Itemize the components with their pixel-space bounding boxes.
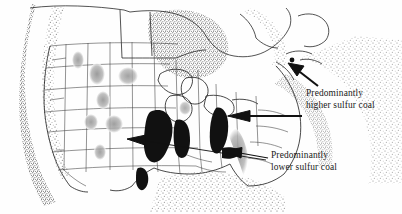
deposit-wyoming bbox=[96, 91, 110, 109]
deposit-nova-scotia bbox=[290, 58, 295, 63]
deposit-utah bbox=[84, 114, 98, 130]
deposit-montana bbox=[72, 51, 84, 69]
label-higher-sulfur-coal: Predominantly higher sulfur coal bbox=[306, 88, 375, 111]
label-lower-sulfur-line1: Predominantly bbox=[271, 150, 337, 162]
deposit-michigan bbox=[179, 101, 191, 115]
coal-sulfur-map-figure: Predominantly higher sulfur coal Predomi… bbox=[0, 0, 402, 214]
label-higher-sulfur-line1: Predominantly bbox=[306, 88, 375, 100]
label-lower-sulfur-line2: lower sulfur coal bbox=[271, 162, 337, 174]
deposit-new-mexico bbox=[94, 144, 106, 160]
deposit-powder-river bbox=[89, 63, 105, 85]
deposit-north-dakota bbox=[118, 67, 138, 85]
deposit-colorado bbox=[105, 115, 123, 133]
label-lower-sulfur-coal: Predominantly lower sulfur coal bbox=[271, 150, 337, 173]
label-higher-sulfur-line2: higher sulfur coal bbox=[306, 100, 375, 112]
